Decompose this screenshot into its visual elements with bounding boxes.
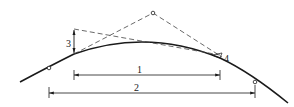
curve-start-marker bbox=[47, 66, 51, 70]
dim4-label: 4 bbox=[224, 53, 229, 64]
apex-marker bbox=[151, 11, 155, 15]
diagram-canvas: 3 4 1 2 bbox=[0, 0, 294, 107]
dim1-label: 1 bbox=[137, 64, 142, 75]
dim3-label: 3 bbox=[66, 38, 71, 49]
tangent-left-dashed bbox=[74, 13, 153, 54]
top-chord-dashed bbox=[74, 29, 220, 55]
curve-end-marker bbox=[253, 80, 257, 84]
main-curve bbox=[20, 42, 288, 103]
tangent-right-dashed bbox=[153, 13, 222, 57]
dim2-label: 2 bbox=[134, 82, 139, 93]
